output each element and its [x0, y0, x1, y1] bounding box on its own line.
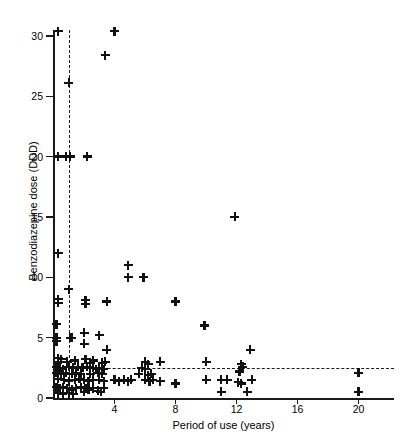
- x-tick-label: 12: [225, 404, 249, 415]
- data-point-marker: [354, 368, 363, 377]
- data-point-marker: [98, 358, 107, 367]
- data-point-marker: [148, 375, 157, 384]
- y-tick-mark: [46, 96, 53, 97]
- data-point-marker: [80, 339, 89, 348]
- y-tick-mark: [46, 397, 53, 398]
- data-point-marker: [217, 387, 226, 396]
- horizontal-reference-line: [53, 368, 394, 369]
- data-point-marker: [80, 375, 89, 384]
- data-point-marker: [354, 387, 363, 396]
- data-point-marker: [223, 375, 232, 384]
- scatter-plot-figure: 051015202530 48121620 Period of use (yea…: [0, 0, 409, 447]
- x-tick-label: 8: [164, 404, 188, 415]
- x-axis-title: Period of use (years): [53, 419, 394, 431]
- y-axis-title: Benzodiazepine dose (DDD): [27, 86, 39, 336]
- data-point-marker: [70, 356, 79, 365]
- data-point-marker: [141, 365, 150, 374]
- x-tick-label: 20: [347, 404, 371, 415]
- data-point-marker: [99, 377, 108, 386]
- data-point-marker: [156, 377, 165, 386]
- data-point-marker: [102, 297, 111, 306]
- data-point-marker: [81, 296, 90, 305]
- data-point-marker: [124, 273, 133, 282]
- data-point-marker: [127, 375, 136, 384]
- data-point-marker: [96, 387, 105, 396]
- data-point-marker: [72, 368, 81, 377]
- y-tick-mark: [46, 216, 53, 217]
- y-tick-mark: [46, 337, 53, 338]
- data-point-marker: [156, 357, 165, 366]
- data-point-marker: [63, 384, 72, 393]
- data-point-marker: [66, 152, 75, 161]
- data-point-marker: [54, 354, 63, 363]
- data-point-marker: [202, 375, 211, 384]
- data-point-marker: [80, 328, 89, 337]
- data-point-marker: [54, 152, 63, 161]
- data-point-marker: [171, 379, 180, 388]
- data-point-marker: [54, 27, 63, 36]
- data-point-marker: [89, 356, 98, 365]
- data-point-marker: [119, 375, 128, 384]
- vertical-reference-line: [69, 30, 70, 398]
- data-point-marker: [54, 298, 63, 307]
- data-point-marker: [60, 375, 69, 384]
- data-point-marker: [66, 333, 75, 342]
- data-point-marker: [171, 297, 180, 306]
- data-point-marker: [95, 331, 104, 340]
- data-point-marker: [217, 375, 226, 384]
- data-point-marker: [75, 374, 84, 383]
- data-point-marker: [89, 384, 98, 393]
- data-point-marker: [101, 357, 110, 366]
- data-point-marker: [234, 378, 243, 387]
- data-point-marker: [115, 377, 124, 386]
- data-point-marker: [63, 357, 72, 366]
- data-point-marker: [72, 384, 81, 393]
- data-point-marker: [89, 375, 98, 384]
- data-point-marker: [83, 362, 92, 371]
- data-point-marker: [93, 368, 102, 377]
- y-tick-mark: [46, 35, 53, 36]
- y-tick-mark: [46, 277, 53, 278]
- data-point-marker: [243, 387, 252, 396]
- data-point-marker: [145, 377, 154, 386]
- data-point-marker: [200, 321, 209, 330]
- y-tick-label: 0: [18, 393, 43, 404]
- y-tick-mark: [46, 156, 53, 157]
- data-point-marker: [99, 384, 108, 393]
- data-point-marker: [84, 377, 93, 386]
- data-point-marker: [202, 357, 211, 366]
- data-point-marker: [86, 358, 95, 367]
- data-point-marker: [102, 345, 111, 354]
- x-tick-label: 16: [286, 404, 310, 415]
- data-point-marker: [81, 384, 90, 393]
- data-point-marker: [95, 375, 104, 384]
- data-point-marker: [54, 374, 63, 383]
- data-point-marker: [134, 369, 143, 378]
- y-axis-line: [53, 30, 55, 399]
- data-point-marker: [76, 369, 85, 378]
- data-point-marker: [237, 379, 246, 388]
- data-point-marker: [54, 389, 63, 398]
- data-point-marker: [92, 365, 101, 374]
- data-point-marker: [76, 383, 85, 392]
- data-point-marker: [54, 357, 63, 366]
- x-axis-line: [53, 398, 394, 400]
- data-point-marker: [80, 387, 89, 396]
- data-point-marker: [58, 365, 67, 374]
- data-point-marker: [238, 362, 247, 371]
- data-point-marker: [246, 345, 255, 354]
- data-point-marker: [141, 357, 150, 366]
- data-point-marker: [124, 377, 133, 386]
- data-point-marker: [57, 369, 66, 378]
- data-point-marker: [247, 375, 256, 384]
- data-point-marker: [139, 273, 148, 282]
- data-point-marker: [84, 385, 93, 394]
- y-tick-label: 30: [18, 31, 43, 42]
- x-tick-label: 4: [103, 404, 127, 415]
- data-point-marker: [141, 375, 150, 384]
- data-point-marker: [55, 384, 64, 393]
- data-point-marker: [98, 369, 107, 378]
- data-point-marker: [147, 369, 156, 378]
- plot-area: 051015202530 48121620 Period of use (yea…: [0, 0, 409, 447]
- data-point-marker: [81, 355, 90, 364]
